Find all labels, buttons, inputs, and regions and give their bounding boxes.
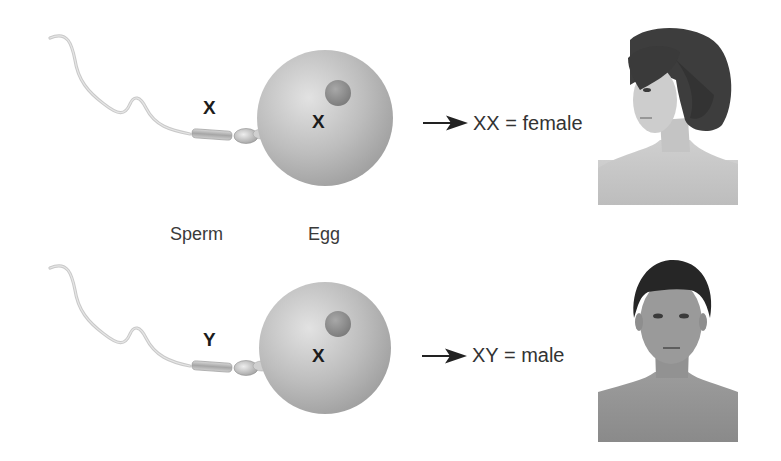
result-genotype: XX — [473, 112, 500, 134]
egg-label: Egg — [308, 224, 340, 245]
arrow-right-icon — [422, 349, 467, 364]
male-row-egg-chromosome: X — [312, 345, 325, 367]
female-portrait — [598, 28, 738, 205]
result-equals: = — [505, 112, 517, 134]
female-row-egg — [257, 50, 393, 186]
diagram-artwork — [0, 0, 781, 461]
sperm-midpiece — [192, 129, 233, 141]
result-sex: female — [523, 112, 583, 134]
arrow-right-icon — [423, 116, 468, 131]
sperm-label: Sperm — [170, 224, 223, 245]
egg-cell — [257, 50, 393, 186]
female-row-result: XX = female — [473, 112, 583, 135]
sperm-tail — [50, 36, 190, 134]
male-row-sperm — [50, 266, 271, 376]
egg-nucleus — [325, 80, 351, 106]
male-portrait — [598, 260, 738, 442]
female-row-sperm — [50, 36, 271, 144]
female-row-egg-chromosome: X — [312, 111, 325, 133]
male-row-sperm-chromosome: Y — [203, 329, 216, 351]
female-row-sperm-chromosome: X — [203, 97, 216, 119]
result-genotype: XY — [472, 344, 498, 366]
result-equals: = — [504, 344, 516, 366]
result-sex: male — [521, 344, 564, 366]
male-row-egg — [259, 282, 391, 414]
male-row-result: XY = male — [472, 344, 565, 367]
